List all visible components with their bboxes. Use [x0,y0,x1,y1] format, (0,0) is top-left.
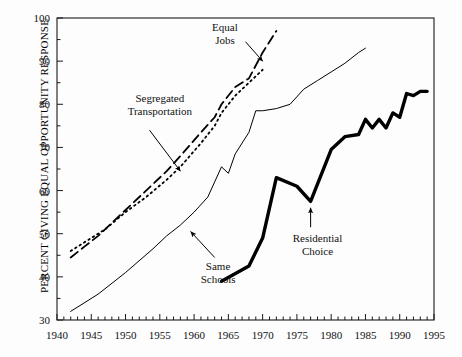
x-tick-label: 1940 [46,329,69,341]
x-tick-label: 1980 [320,329,343,341]
x-tick-label: 1960 [183,329,206,341]
x-tick-label: 1955 [149,329,172,341]
y-tick-label: 70 [39,141,51,153]
annotation-label-same-schools: Schools [201,273,236,285]
y-tick-label: 90 [39,55,51,67]
series-line-equal-jobs [71,31,277,258]
series-annotations-group: EqualJobsSegregatedTransportationSameSch… [128,21,343,285]
data-series-group [71,31,427,311]
annotation-label-residential-choice: Choice [302,245,333,257]
y-tick-label: 60 [39,185,51,197]
annotation-label-same-schools: Same [206,260,231,272]
y-tick-label: 30 [39,314,51,326]
y-axis-tick-labels: 30405060708090100 [34,12,51,326]
chart-figure: PERCENT GIVING EQUAL OPPORTUNITY RESPONS… [0,0,462,357]
annotation-label-equal-jobs: Equal [212,21,238,33]
x-tick-label: 1990 [389,329,412,341]
y-tick-label: 100 [34,12,51,24]
plot-frame [57,18,434,320]
annotation-arrow-segregated-transportation [150,130,181,171]
plot-border [57,18,434,320]
x-tick-label: 1970 [252,329,275,341]
annotation-label-segregated-transportation: Segregated [135,92,184,104]
y-tick-label: 40 [39,271,51,283]
x-tick-label: 1950 [115,329,138,341]
x-tick-label: 1985 [354,329,377,341]
annotation-arrow-same-schools [191,232,215,258]
chart-plot-svg: 1940194519501955196019651970197519801985… [0,0,462,357]
x-axis-ticks [57,314,434,320]
annotation-residential-choice: ResidentialChoice [293,208,343,258]
y-axis-ticks [57,18,63,320]
y-tick-label: 80 [39,98,51,110]
annotation-arrow-equal-jobs [246,42,263,61]
annotation-label-equal-jobs: Jobs [215,34,235,46]
y-tick-label: 50 [39,228,51,240]
x-tick-label: 1945 [80,329,103,341]
annotation-label-segregated-transportation: Transportation [128,105,193,117]
x-tick-label: 1995 [423,329,446,341]
x-tick-label: 1975 [286,329,309,341]
x-axis-tick-labels: 1940194519501955196019651970197519801985… [46,329,446,341]
x-tick-label: 1965 [217,329,240,341]
annotation-segregated-transportation: SegregatedTransportation [128,92,193,171]
annotation-same-schools: SameSchools [191,232,236,286]
annotation-label-residential-choice: Residential [293,232,343,244]
annotation-equal-jobs: EqualJobs [212,21,263,61]
